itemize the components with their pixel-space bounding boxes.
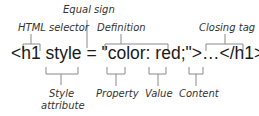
html-code-line: <h1 style = "color: red;">…</h1> bbox=[11, 43, 259, 63]
bracket-style-attribute bbox=[46, 67, 78, 74]
label-value: Value bbox=[145, 88, 173, 99]
label-content: Content bbox=[179, 88, 219, 99]
label-property: Property bbox=[96, 88, 139, 99]
bracket-value bbox=[149, 67, 166, 74]
label-style-attribute-line1: Style bbox=[49, 88, 74, 99]
label-html-selector: HTML selector bbox=[18, 22, 89, 33]
label-style-attribute-line2: attribute bbox=[41, 100, 85, 111]
bracket-property bbox=[107, 67, 125, 74]
label-definition: Definition bbox=[97, 22, 146, 33]
label-closing-tag: Closing tag bbox=[199, 22, 255, 33]
bracket-content bbox=[189, 67, 203, 74]
label-equal-sign: Equal sign bbox=[63, 4, 115, 15]
